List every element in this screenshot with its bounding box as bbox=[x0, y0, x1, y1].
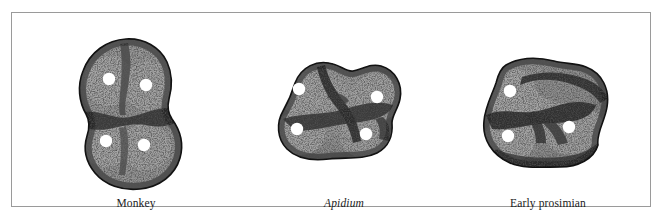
specimen-label-apidium: Apidium bbox=[267, 197, 421, 209]
monkey-tooth-illustration bbox=[68, 35, 204, 195]
cusp-marker-anterolingual bbox=[103, 73, 115, 85]
cusp-marker-anterolingual bbox=[293, 83, 305, 95]
cusp-marker-posterobuccal bbox=[138, 139, 150, 151]
cusp-marker-anterobuccal bbox=[140, 79, 152, 91]
cusp-marker-posterolingual bbox=[502, 130, 514, 142]
cusp-marker-posterolingual bbox=[291, 123, 303, 135]
specimen-label-early-prosimian: Early prosimian bbox=[462, 197, 634, 209]
figure-frame-border: Monkey bbox=[11, 12, 651, 207]
figure-root: Monkey bbox=[0, 0, 663, 221]
early-prosimian-tooth-illustration bbox=[462, 35, 634, 195]
cusp-marker-posterobuccal bbox=[360, 128, 372, 140]
cusp-marker-posterolingual bbox=[100, 135, 112, 147]
apidium-tooth-illustration bbox=[267, 35, 421, 195]
cusp-marker-anterobuccal bbox=[371, 91, 383, 103]
apidium-enamel-body bbox=[267, 35, 421, 195]
cusp-marker-anterolingual bbox=[504, 85, 516, 97]
cusp-marker-buccal bbox=[563, 121, 575, 133]
specimen-label-monkey: Monkey bbox=[68, 197, 204, 209]
